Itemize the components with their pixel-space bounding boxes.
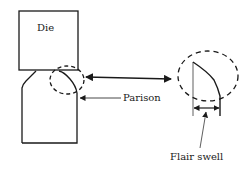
enlarged-detail — [178, 51, 238, 116]
magnify-arrow — [86, 77, 171, 79]
blow-molding-diagram: Die Parison Flair swell — [0, 0, 247, 170]
die: Die — [19, 11, 78, 70]
die-block — [19, 11, 78, 70]
die-label: Die — [37, 22, 54, 33]
parison-label: Parison — [123, 92, 161, 103]
flair-swell-leader — [200, 112, 206, 148]
flair-swell-label: Flair swell — [170, 151, 223, 162]
detail-marker-large — [178, 51, 238, 101]
parison-outline — [22, 71, 77, 143]
